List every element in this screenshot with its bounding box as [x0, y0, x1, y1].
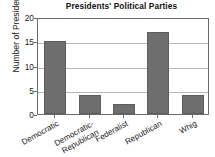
- y-tick-mark: [34, 18, 37, 19]
- y-tick-label: 0: [8, 110, 34, 120]
- bar: [44, 41, 66, 114]
- chart-title: Presidents' Political Parties: [30, 1, 213, 11]
- y-tick-mark: [34, 67, 37, 68]
- x-tick-mark: [89, 115, 90, 118]
- plot-area: [37, 18, 209, 115]
- bar: [79, 95, 101, 114]
- bars-group: [38, 19, 208, 114]
- y-tick-label: 5: [8, 86, 34, 96]
- x-tick-mark: [157, 115, 158, 118]
- y-tick-mark: [34, 42, 37, 43]
- bar: [147, 32, 169, 114]
- y-tick-label: 10: [8, 62, 34, 72]
- bar-chart-figure: Presidents' Political Parties Number of …: [0, 0, 215, 157]
- y-tick-mark: [34, 91, 37, 92]
- y-tick-mark: [34, 115, 37, 116]
- y-tick-label: 20: [8, 13, 34, 23]
- bar: [113, 104, 135, 114]
- x-tick-mark: [192, 115, 193, 118]
- bar: [182, 95, 204, 114]
- x-tick-mark: [123, 115, 124, 118]
- x-tick-mark: [54, 115, 55, 118]
- y-tick-label: 15: [8, 37, 34, 47]
